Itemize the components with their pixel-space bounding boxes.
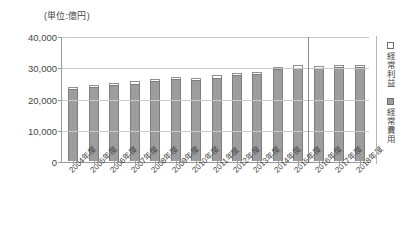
bar-group [355, 36, 365, 161]
gridline [62, 100, 369, 101]
bar-group [232, 36, 242, 161]
legend-swatch-profit-icon [387, 42, 394, 49]
bar-chart: (単位:億円) 010,00020,00030,00040,000 2004年度… [0, 0, 420, 232]
bar-group [314, 36, 324, 161]
legend-swatch-cost-icon [387, 98, 394, 105]
bar-group [171, 36, 181, 161]
gridline [62, 37, 369, 38]
legend: 経常利益 経常費用 [376, 36, 418, 164]
legend-item-profit: 経常利益 [382, 42, 398, 88]
legend-label-profit: 経常利益 [386, 52, 395, 88]
y-axis-tick-mark [58, 68, 61, 69]
y-axis-tick-label: 40,000 [5, 32, 57, 43]
gridline [62, 131, 369, 132]
y-axis-tick-mark [58, 162, 61, 163]
gridline [62, 68, 369, 69]
y-axis-tick-label: 0 [5, 157, 57, 168]
y-axis-tick-mark [58, 131, 61, 132]
y-axis-tick-mark [58, 100, 61, 101]
legend-label-cost: 経常費用 [386, 108, 395, 144]
bars-layer [63, 36, 369, 161]
y-axis-tick-label: 10,000 [5, 125, 57, 136]
y-axis-tick-mark [58, 37, 61, 38]
period-divider-line [308, 37, 309, 162]
y-axis-tick-label: 30,000 [5, 63, 57, 74]
y-axis-tick-label: 20,000 [5, 94, 57, 105]
bar-group [130, 36, 140, 161]
legend-item-cost: 経常費用 [382, 98, 398, 144]
bar-group [89, 36, 99, 161]
bar-group [68, 36, 78, 161]
unit-caption: (単位:億円) [44, 9, 90, 22]
bar-group [273, 36, 283, 161]
